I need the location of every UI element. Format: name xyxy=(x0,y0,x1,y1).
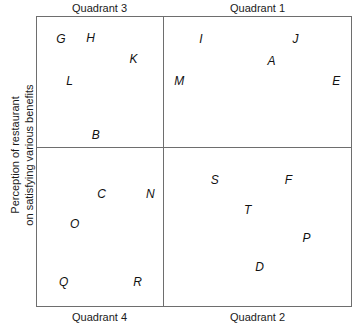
data-point-label: O xyxy=(70,218,79,230)
y-axis-title: Perception of restaurant on satisfying v… xyxy=(8,45,36,265)
quadrant-footer-bottom-right: Quadrant 2 xyxy=(163,311,352,324)
quadrant-header-top-right: Quadrant 1 xyxy=(163,2,352,15)
data-point-label: B xyxy=(92,129,100,141)
data-point-label: A xyxy=(268,55,276,67)
data-point-label: L xyxy=(66,75,73,87)
y-axis-title-line-2: on satisfying various benefits xyxy=(22,84,36,225)
vertical-axis-divider xyxy=(163,17,164,306)
data-point-label: H xyxy=(86,32,95,44)
horizontal-axis-divider xyxy=(37,147,351,148)
y-axis-title-line-1: Perception of restaurant xyxy=(8,96,22,213)
data-point-label: S xyxy=(211,174,219,186)
data-point-label: M xyxy=(174,75,184,87)
plot-area: GHKLBIJAMECNOQRSFTPD xyxy=(36,16,352,307)
data-point-label: J xyxy=(292,33,298,45)
data-point-label: T xyxy=(244,204,251,216)
data-point-label: E xyxy=(332,75,340,87)
quadrant-header-top-left: Quadrant 3 xyxy=(36,2,163,15)
data-point-label: R xyxy=(133,276,142,288)
quadrant-footer-bottom-left: Quadrant 4 xyxy=(36,311,163,324)
data-point-label: K xyxy=(129,53,137,65)
data-point-label: F xyxy=(285,174,292,186)
data-point-label: G xyxy=(56,33,65,45)
data-point-label: P xyxy=(302,232,310,244)
quadrant-perceptual-map: Quadrant 3 Quadrant 1 Perception of rest… xyxy=(0,0,358,334)
data-point-label: I xyxy=(199,33,202,45)
data-point-label: Q xyxy=(59,276,68,288)
data-point-label: C xyxy=(97,188,106,200)
data-point-label: D xyxy=(255,261,264,273)
data-point-label: N xyxy=(146,188,155,200)
